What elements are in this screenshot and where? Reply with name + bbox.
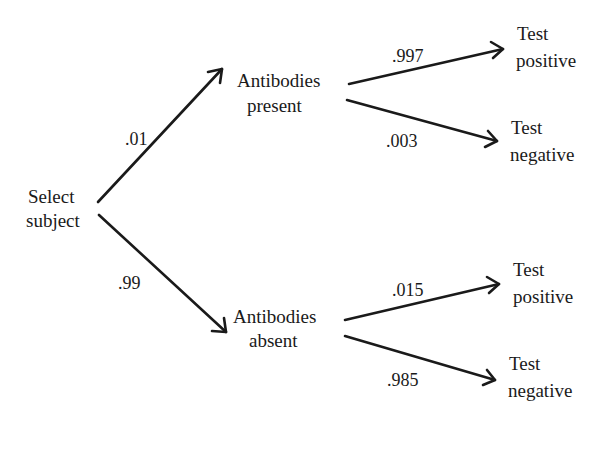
branch-absent-to-negative: .985 [345, 336, 495, 390]
root-label-line2: subject [26, 210, 81, 231]
leaf-absent-test-positive: Test positive [513, 259, 573, 307]
leaf-label-line1: Test [517, 23, 549, 44]
root-label-line1: Select [28, 186, 75, 207]
branch-root-to-absent: .99 [99, 215, 226, 332]
branch-present-to-positive: .997 [349, 42, 503, 84]
present-label-line2: present [247, 95, 303, 116]
leaf-label-line2: positive [516, 50, 576, 71]
leaf-label-line1: Test [509, 353, 541, 374]
leaf-label-line2: negative [510, 144, 574, 165]
branch-line [98, 69, 222, 202]
probability-label-absent: .99 [118, 273, 141, 293]
leaf-label-line2: positive [513, 286, 573, 307]
leaf-absent-test-negative: Test negative [508, 353, 572, 401]
present-label-line1: Antibodies [237, 70, 320, 91]
probability-label-absent-negative: .985 [387, 370, 419, 390]
branch-absent-to-positive: .015 [345, 277, 499, 320]
node-antibodies-absent: Antibodies absent [233, 306, 316, 351]
probability-label-present-negative: .003 [386, 131, 418, 151]
probability-label-present: .01 [125, 129, 148, 149]
leaf-label-line2: negative [508, 380, 572, 401]
leaf-present-test-positive: Test positive [516, 23, 576, 71]
branch-root-to-present: .01 [98, 69, 222, 202]
branch-line [349, 49, 503, 84]
branch-present-to-negative: .003 [347, 100, 497, 151]
node-antibodies-present: Antibodies present [237, 70, 320, 116]
probability-label-present-positive: .997 [392, 46, 424, 66]
leaf-label-line1: Test [511, 117, 543, 138]
branch-line [347, 100, 497, 141]
branch-line [345, 336, 495, 380]
probability-label-absent-positive: .015 [392, 280, 424, 300]
leaf-label-line1: Test [513, 259, 545, 280]
leaf-present-test-negative: Test negative [510, 117, 574, 165]
absent-label-line2: absent [249, 330, 298, 351]
probability-tree-diagram: Select subject .01 .99 Antibodies presen… [0, 0, 616, 452]
absent-label-line1: Antibodies [233, 306, 316, 327]
root-node-select-subject: Select subject [26, 186, 81, 231]
